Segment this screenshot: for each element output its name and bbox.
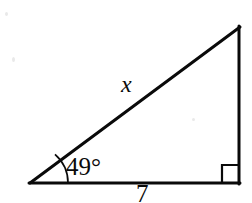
base-length-label: 7 <box>136 181 149 203</box>
hypotenuse-label: x <box>121 72 132 96</box>
triangle-drawing <box>0 0 252 203</box>
scan-speck <box>192 118 195 121</box>
triangle-figure: 49° x 7 <box>0 0 252 203</box>
right-angle-marker-icon <box>222 165 238 182</box>
scan-speck <box>5 12 8 16</box>
scan-speck <box>12 57 15 62</box>
hypotenuse-line <box>30 27 240 183</box>
angle-measure-label: 49° <box>66 154 101 179</box>
